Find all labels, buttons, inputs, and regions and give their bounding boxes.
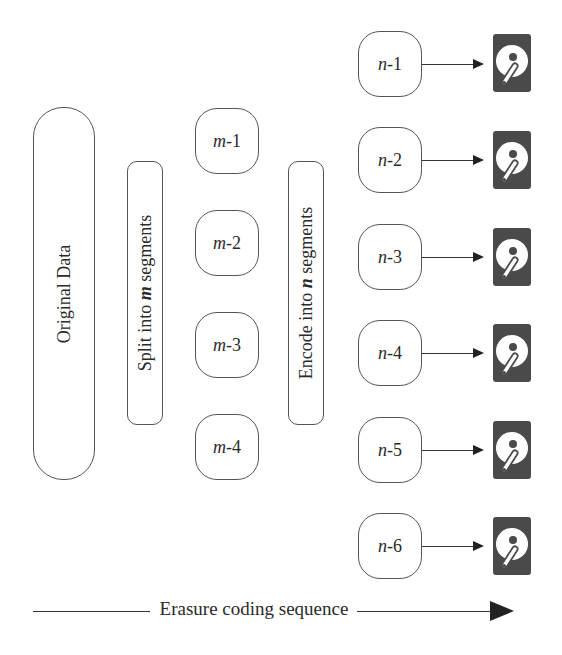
hard-drive-icon: [493, 324, 531, 382]
segment-label: m-2: [213, 233, 241, 254]
arrow-right-icon: [422, 160, 482, 161]
segment-label: n-1: [378, 54, 402, 75]
segment-label: n-6: [378, 536, 402, 557]
hard-drive-icon: [493, 421, 531, 479]
segment-label: m-3: [213, 335, 241, 356]
m-segment-3: m-3: [195, 312, 259, 378]
n-segment-5: n-5: [358, 417, 422, 483]
arrow-right-icon: [422, 353, 482, 354]
segment-label: n-4: [378, 343, 402, 364]
n-segment-2: n-2: [358, 127, 422, 193]
segment-label: m-1: [213, 131, 241, 152]
segment-label: n-5: [378, 440, 402, 461]
arrow-right-icon: [422, 546, 482, 547]
sequence-label: Erasure coding sequence: [155, 598, 353, 620]
m-segment-2: m-2: [195, 210, 259, 276]
segment-label: m-4: [213, 437, 241, 458]
arrow-right-icon: [422, 257, 482, 258]
m-segment-4: m-4: [195, 414, 259, 480]
n-segment-6: n-6: [358, 513, 422, 579]
hard-drive-icon: [493, 517, 531, 575]
n-segment-4: n-4: [358, 320, 422, 386]
arrowhead-icon: [490, 601, 514, 621]
n-segment-1: n-1: [358, 31, 422, 97]
original-data-label: Original Data: [54, 244, 75, 342]
m-segment-1: m-1: [195, 108, 259, 174]
hard-drive-icon: [493, 34, 531, 92]
sequence-line-right: [357, 611, 492, 612]
arrow-right-icon: [422, 64, 482, 65]
original-data-box: Original Data: [33, 107, 95, 480]
sequence-line-left: [33, 611, 150, 612]
segment-label: n-3: [378, 247, 402, 268]
arrow-right-icon: [422, 450, 482, 451]
encode-step-box: Encode into n segments: [288, 161, 324, 425]
split-step-label: Split into m segments: [135, 215, 156, 372]
hard-drive-icon: [493, 131, 531, 189]
n-segment-3: n-3: [358, 224, 422, 290]
segment-label: n-2: [378, 150, 402, 171]
split-step-box: Split into m segments: [127, 161, 163, 425]
hard-drive-icon: [493, 228, 531, 286]
encode-step-label: Encode into n segments: [296, 207, 317, 380]
